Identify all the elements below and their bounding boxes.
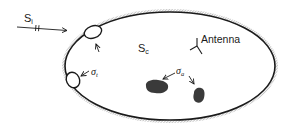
- antenna-label: Antenna: [201, 33, 240, 45]
- incident-arrow: [17, 25, 67, 31]
- incident-power-label: Si: [24, 12, 33, 25]
- cavity-diagram: Si σt Sc Antenna σa: [0, 0, 290, 130]
